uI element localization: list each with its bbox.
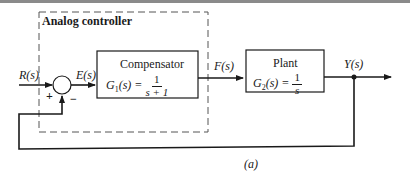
plant-lhs: G xyxy=(253,76,262,90)
compensator-numerator: 1 xyxy=(152,74,162,87)
compensator-title: Compensator xyxy=(120,58,184,70)
plus-sign: + xyxy=(46,90,53,102)
compensator-arg: (s) = xyxy=(119,78,143,92)
plant-arg: (s) = xyxy=(266,76,290,90)
figure-caption: (a) xyxy=(244,158,258,170)
plant-numerator: 1 xyxy=(292,72,302,85)
minus-sign: − xyxy=(70,93,77,105)
input-signal-label: R(s) xyxy=(19,69,39,81)
plant-title: Plant xyxy=(273,57,298,69)
plant-fraction: 1 s xyxy=(292,72,302,96)
compensator-denominator: s + 1 xyxy=(145,87,168,99)
plant-transfer-function: G2(s) = 1 s xyxy=(253,72,302,96)
plant-denominator: s xyxy=(295,85,299,97)
output-signal-label: Y(s) xyxy=(344,58,363,70)
compensator-fraction: 1 s + 1 xyxy=(145,74,168,98)
control-signal-label: F(s) xyxy=(214,60,234,72)
error-signal-label: E(s) xyxy=(76,69,96,81)
compensator-transfer-function: G1(s) = 1 s + 1 xyxy=(106,74,168,98)
analog-controller-label: Analog controller xyxy=(42,15,132,27)
summing-junction xyxy=(53,76,71,94)
compensator-lhs: G xyxy=(106,78,115,92)
